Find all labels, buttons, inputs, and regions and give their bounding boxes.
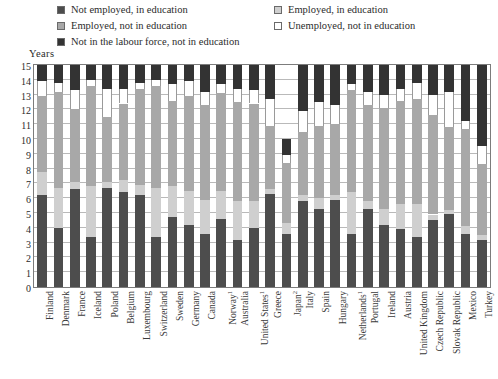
bar-segment-not_in_labour_force_not_in_education xyxy=(37,65,47,81)
bar-segment-employed_in_education xyxy=(86,186,96,236)
y-tick-label: 9 xyxy=(5,149,31,160)
x-tick-label-text: Poland xyxy=(110,291,120,317)
bar-canada[interactable] xyxy=(200,65,210,287)
bar-segment-not_in_labour_force_not_in_education xyxy=(184,65,194,81)
bar-segment-not_in_labour_force_not_in_education xyxy=(216,65,226,84)
x-tick-label: Greece xyxy=(274,291,283,318)
bar-segment-employed_in_education xyxy=(135,185,145,195)
bar-australia[interactable] xyxy=(233,65,243,287)
bar-segment-employed_not_in_education xyxy=(444,127,454,210)
bar-segment-employed_not_in_education xyxy=(70,109,80,182)
bar-segment-employed_in_education xyxy=(396,204,406,229)
bar-segment-unemployed_not_in_education xyxy=(70,90,80,109)
bar-segment-employed_not_in_education xyxy=(216,93,226,191)
bar-belgium[interactable] xyxy=(119,65,129,287)
x-tick-label: Slovak Republic xyxy=(453,291,462,354)
bar-segment-employed_not_in_education xyxy=(379,108,389,209)
bar-segment-not_in_labour_force_not_in_education xyxy=(54,65,64,83)
bar-segment-not_employed_in_education xyxy=(330,200,340,287)
bar-segment-employed_not_in_education xyxy=(412,99,422,204)
x-tick-label-text: Switzerland xyxy=(159,291,169,336)
x-tick-label: Finland xyxy=(46,291,55,320)
plot-area: 0123456789101112131415 FinlandDenmarkFra… xyxy=(0,0,498,379)
bar-segment-unemployed_not_in_education xyxy=(444,92,454,128)
x-tick-label: Sweden xyxy=(176,291,185,321)
y-tick-label: 7 xyxy=(5,179,31,190)
bar-segment-unemployed_not_in_education xyxy=(216,84,226,93)
bar-segment-employed_not_in_education xyxy=(37,96,47,171)
bar-japan[interactable] xyxy=(282,65,292,287)
bar-netherlands[interactable] xyxy=(347,65,357,287)
bar-slovak-republic[interactable] xyxy=(444,65,454,287)
bar-segment-not_employed_in_education xyxy=(119,192,129,287)
bar-segment-not_employed_in_education xyxy=(70,189,80,287)
bar-segment-employed_not_in_education xyxy=(102,117,112,182)
x-tick-label: Switzerland xyxy=(160,291,169,336)
x-tick-label: Iceland xyxy=(94,291,103,319)
bar-segment-employed_not_in_education xyxy=(298,132,308,196)
bar-segment-employed_in_education xyxy=(282,223,292,233)
bar-segment-unemployed_not_in_education xyxy=(330,105,340,124)
bar-segment-employed_not_in_education xyxy=(135,89,145,185)
bar-segment-employed_in_education xyxy=(330,195,340,199)
bar-segment-employed_in_education xyxy=(184,191,194,225)
bar-mexico[interactable] xyxy=(461,65,471,287)
bar-denmark[interactable] xyxy=(54,65,64,287)
bar-united-states[interactable] xyxy=(249,65,259,287)
bar-segment-employed_in_education xyxy=(119,180,129,192)
bar-segment-not_in_labour_force_not_in_education xyxy=(444,65,454,92)
bar-hungary[interactable] xyxy=(330,65,340,287)
bar-norway[interactable] xyxy=(216,65,226,287)
bar-sweden[interactable] xyxy=(168,65,178,287)
bar-portugal[interactable] xyxy=(363,65,373,287)
bar-iceland[interactable] xyxy=(86,65,96,287)
x-tick-label: Mexico xyxy=(469,291,478,320)
bar-segment-unemployed_not_in_education xyxy=(102,89,112,117)
bar-segment-employed_in_education xyxy=(477,235,487,239)
bar-luxembourg[interactable] xyxy=(135,65,145,287)
x-tick-label-text: Japan xyxy=(293,294,303,316)
bar-turkey[interactable] xyxy=(477,65,487,287)
bar-segment-unemployed_not_in_education xyxy=(396,89,406,101)
bar-finland[interactable] xyxy=(37,65,47,287)
bar-segment-employed_not_in_education xyxy=(54,92,64,188)
bar-austria[interactable] xyxy=(396,65,406,287)
bar-segment-not_employed_in_education xyxy=(363,209,373,287)
bar-segment-unemployed_not_in_education xyxy=(168,84,178,100)
bar-czech-republic[interactable] xyxy=(428,65,438,287)
bar-segment-not_in_labour_force_not_in_education xyxy=(70,65,80,90)
bar-segment-employed_not_in_education xyxy=(151,86,161,188)
bar-segment-employed_in_education xyxy=(70,182,80,189)
bar-ireland[interactable] xyxy=(379,65,389,287)
bar-segment-employed_not_in_education xyxy=(282,163,292,224)
bar-united-kingdom[interactable] xyxy=(412,65,422,287)
bar-segment-not_in_labour_force_not_in_education xyxy=(363,65,373,92)
bar-segment-not_in_labour_force_not_in_education xyxy=(428,65,438,95)
bar-switzerland[interactable] xyxy=(151,65,161,287)
bar-germany[interactable] xyxy=(184,65,194,287)
x-tick-label: Netherlands1 xyxy=(355,291,368,340)
x-tick-label-text: Austria xyxy=(403,291,413,319)
x-tick-label-text: Netherlands xyxy=(358,294,368,340)
bar-segment-employed_not_in_education xyxy=(168,101,178,187)
bar-segment-employed_not_in_education xyxy=(119,104,129,181)
x-tick-label: United Kingdom xyxy=(420,291,429,355)
bar-segment-not_in_labour_force_not_in_education xyxy=(330,65,340,105)
x-tick-label-text: Slovak Republic xyxy=(452,291,462,354)
stacked-bar-chart: Not employed, in educationEmployed, not … xyxy=(0,0,498,379)
bar-poland[interactable] xyxy=(102,65,112,287)
bar-italy[interactable] xyxy=(298,65,308,287)
bar-spain[interactable] xyxy=(314,65,324,287)
bar-segment-not_in_labour_force_not_in_education xyxy=(379,65,389,95)
bar-segment-not_in_labour_force_not_in_education xyxy=(135,65,145,83)
bar-segment-employed_not_in_education xyxy=(428,115,438,214)
bar-segment-not_in_labour_force_not_in_education xyxy=(119,65,129,89)
x-tick-label-text: Portugal xyxy=(370,291,380,323)
bar-segment-unemployed_not_in_education xyxy=(477,146,487,164)
bar-segment-unemployed_not_in_education xyxy=(428,95,438,116)
y-tick-label: 0 xyxy=(5,283,31,294)
bar-segment-employed_in_education xyxy=(363,201,373,208)
bar-greece[interactable] xyxy=(265,65,275,287)
bar-france[interactable] xyxy=(70,65,80,287)
bar-segment-unemployed_not_in_education xyxy=(249,90,259,103)
